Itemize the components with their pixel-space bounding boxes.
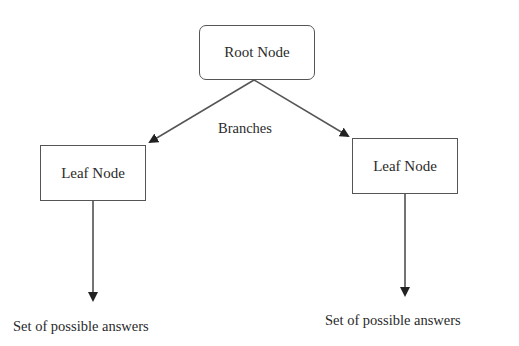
leaf-node-right-label: Leaf Node: [373, 158, 437, 175]
branches-label: Branches: [218, 120, 272, 137]
root-node: Root Node: [199, 25, 315, 80]
answers-right-label: Set of possible answers: [325, 312, 461, 329]
answers-left-label: Set of possible answers: [13, 318, 149, 335]
leaf-node-left-label: Leaf Node: [61, 165, 125, 182]
leaf-node-left: Leaf Node: [40, 145, 146, 201]
leaf-node-right: Leaf Node: [352, 138, 458, 194]
root-node-label: Root Node: [224, 44, 289, 61]
